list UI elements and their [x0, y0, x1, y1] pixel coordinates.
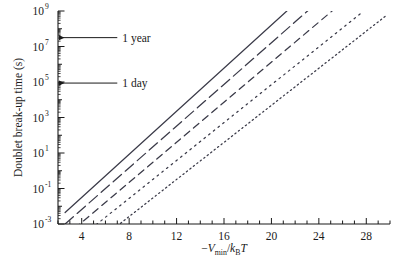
x-tick-label: 8	[126, 230, 132, 242]
x-tick-label: 24	[313, 230, 325, 242]
y-axis-label-text: Doublet break-up time (s)	[12, 58, 25, 177]
y-tick-label: 101	[33, 144, 50, 159]
y-tick-labels: 10-310-1101103105107109	[33, 2, 52, 230]
y-tick-exponent: 1	[45, 144, 49, 153]
data-series-group	[65, 8, 385, 266]
x-tick-label: 12	[171, 230, 183, 242]
x-tick-label: 20	[266, 230, 278, 242]
annotation-label: 1 year	[122, 32, 151, 45]
x-tick-label: 16	[218, 230, 230, 242]
figure-container: 481216202428 10-310-1101103105107109 1 y…	[0, 0, 404, 273]
y-tick-label: 10-1	[33, 180, 52, 195]
y-axis-label: Doublet break-up time (s)	[12, 58, 25, 177]
data-line-curve-4	[68, 13, 361, 247]
y-tick-exponent: 7	[45, 38, 49, 47]
data-line-curve-1	[65, 11, 287, 212]
y-tick-exponent: 9	[45, 2, 49, 11]
y-tick-mantissa: 10	[33, 183, 45, 195]
y-tick-exponent: 3	[45, 109, 49, 118]
x-tick-labels: 481216202428	[79, 230, 372, 242]
x-axis-label: −Vmin/kBT	[201, 242, 248, 257]
annotation-label: 1 day	[122, 77, 147, 90]
y-tick-exponent: 5	[45, 73, 49, 82]
y-tick-label: 109	[33, 2, 50, 17]
data-line-curve-3	[65, 10, 333, 236]
x-tick-label: 28	[361, 230, 373, 242]
annotations-group: 1 year1 day	[59, 32, 151, 90]
y-tick-mantissa: 10	[33, 147, 45, 159]
data-line-curve-2	[65, 8, 310, 224]
y-tick-exponent: -3	[45, 215, 52, 224]
x-tick-label: 4	[79, 230, 85, 242]
y-tick-label: 103	[33, 109, 50, 124]
y-tick-mantissa: 10	[33, 41, 45, 53]
y-tick-label: 107	[33, 38, 50, 53]
y-tick-mantissa: 10	[33, 76, 45, 88]
y-tick-exponent: -1	[45, 180, 52, 189]
y-tick-label: 105	[33, 73, 50, 88]
axes-group	[58, 11, 390, 224]
y-tick-mantissa: 10	[33, 5, 45, 17]
chart-canvas: 481216202428 10-310-1101103105107109 1 y…	[0, 0, 404, 273]
y-tick-label: 10-3	[33, 215, 52, 230]
y-tick-mantissa: 10	[33, 112, 45, 124]
y-tick-mantissa: 10	[33, 218, 45, 230]
